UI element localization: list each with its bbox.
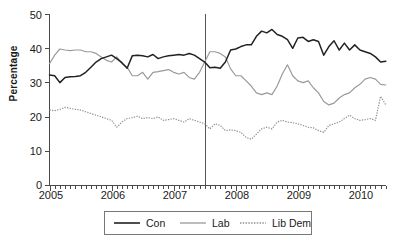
y-tick-label: 10	[30, 145, 42, 157]
chart-legend: Con Lab Lib Dem	[105, 212, 312, 235]
y-tick-marks	[45, 15, 50, 186]
chart-figure: Percentage 0 10 20 30 40 50 2005	[0, 0, 399, 243]
legend-label-lib-dem: Lib Dem	[272, 217, 311, 229]
x-tick-label: 2009	[287, 189, 311, 201]
x-tick-label: 2008	[225, 189, 249, 201]
legend-label-lab: Lab	[212, 217, 230, 229]
y-tick-label: 30	[30, 77, 42, 89]
y-tick-label: 20	[30, 111, 42, 123]
line-chart-plot: 0 10 20 30 40 50 2005 2006 2007 2008 200…	[0, 0, 399, 243]
x-tick-label: 2007	[163, 189, 187, 201]
x-tick-label: 2005	[39, 189, 63, 201]
y-tick-label: 40	[30, 43, 42, 55]
x-tick-label: 2006	[101, 189, 125, 201]
y-tick-labels: 0 10 20 30 40 50	[30, 9, 42, 192]
y-tick-label: 50	[30, 9, 42, 21]
x-tick-label: 2010	[349, 189, 373, 201]
series-line-lib-dem	[50, 96, 386, 139]
series-line-lab	[50, 49, 386, 105]
legend-label-con: Con	[146, 217, 165, 229]
x-tick-labels: 2005 2006 2007 2008 2009 2010	[39, 189, 373, 201]
